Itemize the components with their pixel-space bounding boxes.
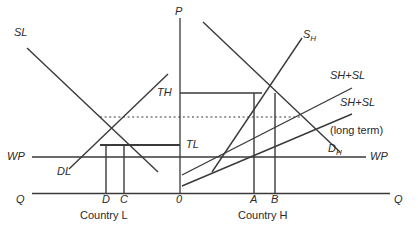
curve-dh — [203, 22, 340, 152]
curve-sh-plus-sl-long-term — [182, 114, 352, 186]
tick-label-c: C — [120, 194, 128, 205]
diagram-canvas — [0, 0, 418, 233]
tick-label-b: B — [271, 194, 278, 205]
axis-label-p: P — [175, 6, 182, 17]
curve-label-sh: SH — [303, 29, 316, 43]
panel-label-country-l: Country L — [80, 210, 128, 221]
curve-label-dl: DL — [57, 166, 71, 177]
curve-label-sh-subscript: H — [310, 34, 316, 43]
panel-label-country-h: Country H — [238, 210, 288, 221]
price-label-tl: TL — [186, 139, 199, 150]
curve-label-sl: SL — [14, 27, 27, 38]
axis-origin-label: 0 — [176, 194, 182, 205]
curve-label-sh-plus-sl-lower: SH+SL — [340, 97, 375, 108]
tick-label-d: D — [102, 194, 110, 205]
curve-sl — [27, 48, 158, 172]
price-label-th: TH — [157, 87, 172, 98]
curve-label-long-term: (long term) — [330, 125, 383, 136]
axis-label-q-right: Q — [394, 194, 403, 205]
axis-label-q-left: Q — [16, 194, 25, 205]
curve-sh-plus-sl-upper — [182, 88, 352, 175]
curve-label-dh-subscript: H — [336, 148, 342, 157]
price-label-wp-left: WP — [7, 151, 25, 162]
curve-label-dh-base: D — [328, 142, 336, 154]
curve-label-sh-plus-sl-upper: SH+SL — [330, 70, 365, 81]
curve-sh — [212, 38, 302, 172]
curve-dl — [69, 74, 168, 169]
tick-label-a: A — [250, 194, 257, 205]
curve-label-dh: DH — [328, 143, 342, 157]
price-label-wp-right: WP — [370, 151, 388, 162]
supply-demand-diagram: SL DL SH DH SH+SL SH+SL (long term) TH T… — [0, 0, 418, 233]
